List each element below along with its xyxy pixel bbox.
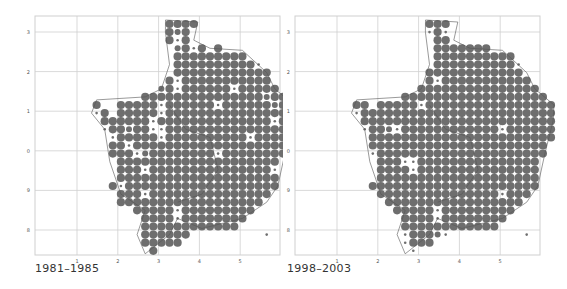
map-panel-1981-1985: 12345321098 1981–1985 (0, 0, 283, 289)
y-tick-label: 3 (287, 29, 290, 35)
y-tick-label: 9 (287, 187, 290, 193)
panel-caption: 1981–1985 (35, 262, 99, 275)
x-tick-label: 5 (499, 258, 502, 264)
y-tick-label: 3 (27, 29, 30, 35)
map-plot: 12345321098 (0, 0, 283, 289)
map-plot: 12345321098 (283, 0, 567, 289)
distribution-dots (353, 20, 556, 252)
x-tick-label: 4 (198, 258, 201, 264)
y-tick-label: 8 (27, 227, 30, 233)
y-tick-label: 1 (27, 108, 30, 114)
y-tick-label: 0 (27, 148, 30, 154)
y-tick-label: 2 (27, 69, 30, 75)
panel-caption: 1998–2003 (287, 262, 351, 275)
distribution-dots (93, 20, 284, 255)
x-tick-label: 5 (239, 258, 242, 264)
y-tick-label: 0 (287, 148, 290, 154)
x-tick-label: 2 (376, 258, 379, 264)
y-tick-label: 1 (287, 108, 290, 114)
x-tick-label: 3 (417, 258, 420, 264)
x-tick-label: 3 (157, 258, 160, 264)
y-tick-label: 9 (27, 187, 30, 193)
x-tick-label: 4 (458, 258, 461, 264)
y-tick-label: 2 (287, 69, 290, 75)
map-panel-1998-2003: 12345321098 1998–2003 (283, 0, 566, 289)
x-tick-label: 2 (116, 258, 119, 264)
y-tick-label: 8 (287, 227, 290, 233)
